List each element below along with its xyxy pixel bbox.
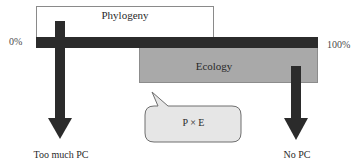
arrow-down-icon-right bbox=[284, 66, 308, 140]
arrow-down-icon-left bbox=[48, 21, 72, 139]
callout-label: P × E bbox=[146, 116, 241, 129]
diagram-overlay bbox=[0, 0, 361, 165]
arrow-label-right: No PC bbox=[278, 148, 316, 161]
arrow-label-left: Too much PC bbox=[20, 148, 102, 161]
